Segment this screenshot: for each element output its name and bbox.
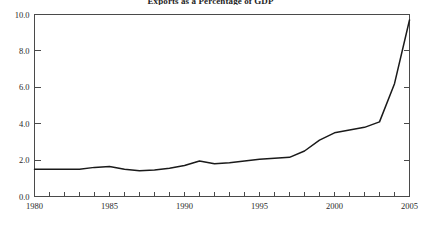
chart-figure: Exports as a Percentage of GDP 0.02.04.0… bbox=[0, 0, 421, 228]
plot-frame-border bbox=[35, 15, 410, 197]
line-chart-plot: 0.02.04.06.08.010.0 19801985199019952000… bbox=[0, 0, 421, 228]
x-axis-tick-labels: 198019851990199520002005 bbox=[26, 201, 418, 211]
x-tick-label: 2005 bbox=[401, 201, 418, 211]
y-tick-label: 2.0 bbox=[19, 155, 30, 165]
x-tick-label: 2000 bbox=[326, 201, 343, 211]
y-tick-label: 6.0 bbox=[19, 82, 30, 92]
axis-tick-marks bbox=[35, 51, 410, 197]
x-tick-label: 1980 bbox=[26, 201, 43, 211]
y-tick-label: 10.0 bbox=[15, 10, 30, 20]
y-axis-tick-labels: 0.02.04.06.08.010.0 bbox=[15, 10, 30, 202]
x-tick-label: 1995 bbox=[251, 201, 268, 211]
x-tick-label: 1990 bbox=[176, 201, 193, 211]
y-tick-label: 8.0 bbox=[19, 46, 30, 56]
x-tick-label: 1985 bbox=[101, 201, 118, 211]
y-tick-label: 4.0 bbox=[19, 119, 30, 129]
exports-gdp-line-series bbox=[35, 20, 410, 171]
